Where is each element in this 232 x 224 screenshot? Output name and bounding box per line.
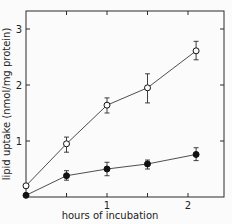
x-tick-label: 2 [185, 200, 191, 211]
y-tick-label: 3 [16, 24, 22, 35]
filled-circle-marker [23, 192, 29, 198]
series-filled-circles [23, 148, 199, 199]
open-circle-marker [104, 102, 110, 108]
series-open-circles [23, 41, 199, 188]
data-series [23, 41, 199, 198]
x-axis-ticks: 12 [67, 11, 192, 211]
y-tick-label: 2 [16, 80, 22, 91]
open-circle-marker [145, 85, 151, 91]
filled-circle-marker [193, 151, 199, 157]
y-tick-label: 1 [16, 136, 22, 147]
series-line [26, 51, 196, 186]
line-chart: 12 123 hours of incubation lipid uptake … [0, 0, 232, 224]
filled-circle-marker [64, 173, 70, 179]
series-line [26, 154, 196, 195]
y-axis-ticks: 123 [16, 24, 224, 147]
open-circle-marker [64, 141, 70, 147]
filled-circle-marker [145, 161, 151, 167]
open-circle-marker [23, 183, 29, 189]
filled-circle-marker [104, 166, 110, 172]
open-circle-marker [193, 48, 199, 54]
plot-frame [26, 11, 224, 197]
y-axis-label: lipid uptake (nmol/mg protein) [1, 28, 12, 181]
x-axis-label: hours of incubation [62, 210, 159, 221]
